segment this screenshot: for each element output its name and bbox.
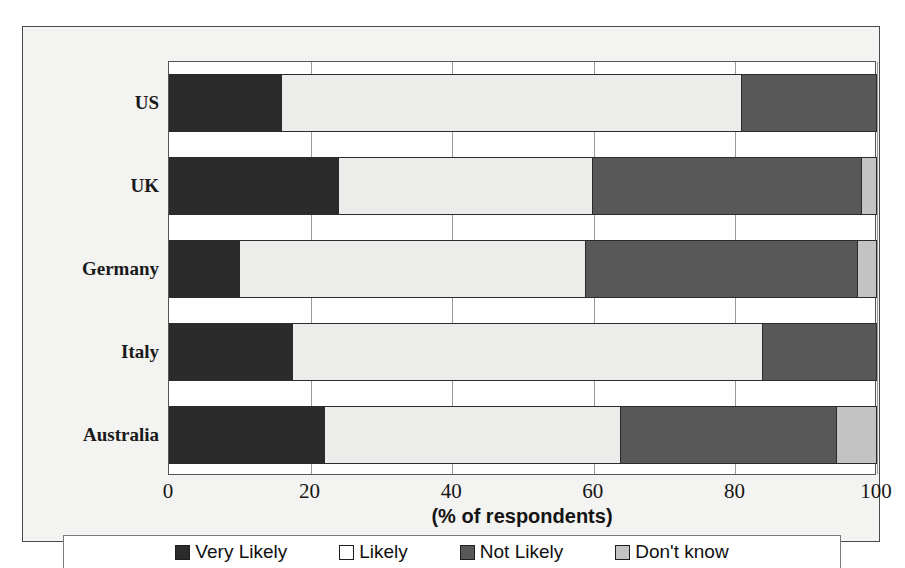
- legend-entry[interactable]: Don't know: [615, 541, 728, 563]
- category-row: Italy: [169, 323, 875, 381]
- bar-segment[interactable]: [837, 407, 876, 463]
- legend-entry[interactable]: Very Likely: [175, 541, 287, 563]
- category-row: Australia: [169, 406, 875, 464]
- category-label-australia: Australia: [0, 406, 159, 464]
- x-tick-label: 40: [441, 479, 462, 504]
- bar-segment[interactable]: [169, 241, 240, 297]
- bar-segment[interactable]: [763, 324, 876, 380]
- bar-segment[interactable]: [293, 324, 763, 380]
- bar-segment[interactable]: [325, 407, 622, 463]
- category-label-uk: UK: [0, 157, 159, 215]
- legend-label: Not Likely: [480, 541, 563, 563]
- legend-swatch-icon: [339, 545, 354, 560]
- bar-segment[interactable]: [621, 407, 837, 463]
- x-tick-label: 20: [299, 479, 320, 504]
- bar-segment[interactable]: [169, 324, 293, 380]
- x-axis-title: (% of respondents): [168, 505, 876, 528]
- bar-segment[interactable]: [240, 241, 586, 297]
- bar-segment[interactable]: [282, 75, 742, 131]
- bar-segment[interactable]: [169, 158, 339, 214]
- bar-segment[interactable]: [593, 158, 862, 214]
- x-tick-label: 100: [860, 479, 892, 504]
- legend-entry[interactable]: Likely: [339, 541, 408, 563]
- stacked-bar[interactable]: [169, 323, 877, 381]
- legend-label: Likely: [359, 541, 408, 563]
- chart-legend: Very LikelyLikelyNot LikelyDon't know: [63, 535, 841, 568]
- legend-swatch-icon: [460, 545, 475, 560]
- bar-segment[interactable]: [339, 158, 594, 214]
- legend-label: Very Likely: [195, 541, 287, 563]
- legend-swatch-icon: [615, 545, 630, 560]
- legend-entry[interactable]: Not Likely: [460, 541, 563, 563]
- stacked-bar[interactable]: [169, 157, 877, 215]
- chart-frame: USUKGermanyItalyAustralia 020406080100 (…: [22, 26, 880, 542]
- bar-segment[interactable]: [862, 158, 876, 214]
- bar-segment[interactable]: [742, 75, 876, 131]
- x-tick-label: 0: [163, 479, 174, 504]
- x-tick-label: 60: [582, 479, 603, 504]
- chart-page: USUKGermanyItalyAustralia 020406080100 (…: [0, 0, 905, 568]
- gridline: [877, 62, 878, 474]
- legend-swatch-icon: [175, 545, 190, 560]
- category-row: US: [169, 74, 875, 132]
- stacked-bar[interactable]: [169, 406, 877, 464]
- category-label-germany: Germany: [0, 240, 159, 298]
- category-row: Germany: [169, 240, 875, 298]
- stacked-bar[interactable]: [169, 74, 877, 132]
- category-label-us: US: [0, 74, 159, 132]
- bar-segment[interactable]: [169, 75, 282, 131]
- x-tick-label: 80: [724, 479, 745, 504]
- plot-area: USUKGermanyItalyAustralia: [168, 61, 876, 475]
- bar-segment[interactable]: [586, 241, 858, 297]
- legend-label: Don't know: [635, 541, 728, 563]
- bar-segment[interactable]: [858, 241, 876, 297]
- category-label-italy: Italy: [0, 323, 159, 381]
- bar-segment[interactable]: [169, 407, 325, 463]
- category-row: UK: [169, 157, 875, 215]
- stacked-bar[interactable]: [169, 240, 877, 298]
